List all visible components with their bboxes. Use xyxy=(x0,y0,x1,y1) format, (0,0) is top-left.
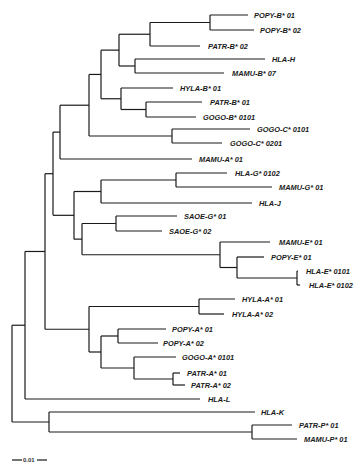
leaf-label-hla-h: HLA-H xyxy=(272,55,296,64)
leaf-labels: POPY-B* 01POPY-B* 02PATR-B* 02HLA-HMAMU-… xyxy=(163,11,354,444)
leaf-label-popy-a02: POPY-A* 02 xyxy=(163,339,205,348)
leaf-label-hla-e0102: HLA-E* 0102 xyxy=(309,281,354,290)
leaf-label-mamu-p01: MAMU-P* 01 xyxy=(304,435,348,444)
leaf-label-mamu-a01: MAMU-A* 01 xyxy=(199,155,243,164)
leaf-label-popy-a01: POPY-A* 01 xyxy=(172,325,213,334)
leaf-label-hla-j: HLA-J xyxy=(259,199,282,208)
leaf-label-hla-l: HLA-L xyxy=(208,395,231,404)
leaf-label-gogo-c0101: GOGO-C* 0101 xyxy=(257,125,309,134)
leaf-label-gogo-b0101: GOGO-B* 0101 xyxy=(203,113,255,122)
leaf-label-hla-e0101: HLA-E* 0101 xyxy=(306,267,350,276)
leaf-label-gogo-a0101: GOGO-A* 0101 xyxy=(182,353,234,362)
leaf-label-patr-a01: PATR-A* 01 xyxy=(187,369,227,378)
leaf-label-hla-k: HLA-K xyxy=(261,408,285,417)
leaf-label-saoe-g02: SAOE-G* 02 xyxy=(169,227,212,236)
leaf-label-popy-e01: POPY-E* 01 xyxy=(271,253,312,262)
leaf-label-mamu-g01: MAMU-G* 01 xyxy=(279,183,323,192)
leaf-label-hyla-a02: HYLA-A* 02 xyxy=(232,310,274,319)
leaf-label-saoe-g01: SAOE-G* 01 xyxy=(184,212,226,221)
scale-bar: 0.01 xyxy=(12,457,47,463)
leaf-label-gogo-c0201: GOGO-C* 0201 xyxy=(230,139,282,148)
leaf-label-patr-p01: PATR-P* 01 xyxy=(299,421,339,430)
leaf-label-patr-a02: PATR-A* 02 xyxy=(191,381,232,390)
leaf-label-patr-b02: PATR-B* 02 xyxy=(208,42,249,51)
scale-bar-label: 0.01 xyxy=(23,457,35,463)
tree-branches xyxy=(12,15,300,439)
leaf-label-hyla-a01: HYLA-A* 01 xyxy=(242,295,283,304)
leaf-label-patr-b01: PATR-B* 01 xyxy=(210,98,250,107)
leaf-label-hla-g0102: HLA-G* 0102 xyxy=(235,169,281,178)
leaf-label-hyla-b01: HYLA-B* 01 xyxy=(180,84,221,93)
leaf-label-popy-b01: POPY-B* 01 xyxy=(254,11,295,20)
phylogenetic-tree: POPY-B* 01POPY-B* 02PATR-B* 02HLA-HMAMU-… xyxy=(0,0,364,471)
leaf-label-mamu-b07: MAMU-B* 07 xyxy=(232,69,277,78)
leaf-label-mamu-e01: MAMU-E* 01 xyxy=(279,238,323,247)
leaf-label-popy-b02: POPY-B* 02 xyxy=(260,26,302,35)
